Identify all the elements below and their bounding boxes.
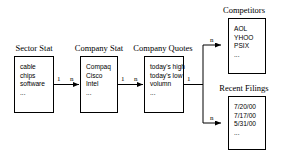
entity-row: volumn — [150, 80, 181, 89]
cardinality-sector-one: 1 — [57, 76, 61, 83]
entity-row: 5/31/00 — [234, 120, 263, 129]
entity-row: today's low — [150, 72, 181, 81]
entity-row: ... — [86, 89, 115, 98]
entity-title-company-quotes: Company Quotes — [128, 44, 198, 53]
entity-row: AOL — [234, 25, 263, 34]
entity-box-sector-stat[interactable]: cable chips software ... — [14, 56, 54, 113]
entity-body-recent-filings: 7/20/00 7/17/00 5/31/00 ... — [234, 103, 263, 137]
entity-row: cable — [20, 63, 51, 72]
entity-row: Intel — [86, 80, 115, 89]
entity-title-company-stat: Company Stat — [68, 44, 130, 53]
entity-row: Compaq — [86, 63, 115, 72]
entity-row: PSIX — [234, 42, 263, 51]
cardinality-company-one: 1 — [121, 76, 125, 83]
cardinality-quotes-many: n — [134, 76, 138, 83]
entity-box-company-stat[interactable]: Compaq Cisco Intel ... — [80, 56, 118, 113]
cardinality-quotes-fork-one: 1 — [187, 76, 191, 83]
entity-box-company-quotes[interactable]: today's high today's low volumn ... — [144, 56, 184, 113]
entity-row: chips — [20, 72, 51, 81]
entity-title-competitors: Competitors — [216, 6, 272, 15]
entity-row: ... — [234, 129, 263, 138]
entity-row: ... — [234, 51, 263, 60]
entity-row: 7/20/00 — [234, 103, 263, 112]
entity-row: ... — [150, 89, 181, 98]
entity-box-competitors[interactable]: AOL YHOO PSIX ... — [228, 18, 266, 74]
entity-row: 7/17/00 — [234, 112, 263, 121]
entity-title-sector-stat: Sector Stat — [4, 44, 64, 53]
entity-row: Cisco — [86, 72, 115, 81]
diagram-canvas: Sector Stat cable chips software ... Com… — [0, 0, 281, 162]
cardinality-competitors-many: n — [210, 37, 214, 44]
entity-row: YHOO — [234, 34, 263, 43]
cardinality-company-many: n — [70, 76, 74, 83]
entity-title-recent-filings: Recent Filings — [212, 84, 276, 93]
entity-row: ... — [20, 89, 51, 98]
entity-box-recent-filings[interactable]: 7/20/00 7/17/00 5/31/00 ... — [228, 96, 266, 150]
entity-body-company-stat: Compaq Cisco Intel ... — [86, 63, 115, 97]
entity-body-competitors: AOL YHOO PSIX ... — [234, 25, 263, 59]
entity-body-company-quotes: today's high today's low volumn ... — [150, 63, 181, 97]
entity-row: today's high — [150, 63, 181, 72]
entity-row: software — [20, 80, 51, 89]
entity-body-sector-stat: cable chips software ... — [20, 63, 51, 97]
cardinality-filings-many: n — [210, 115, 214, 122]
